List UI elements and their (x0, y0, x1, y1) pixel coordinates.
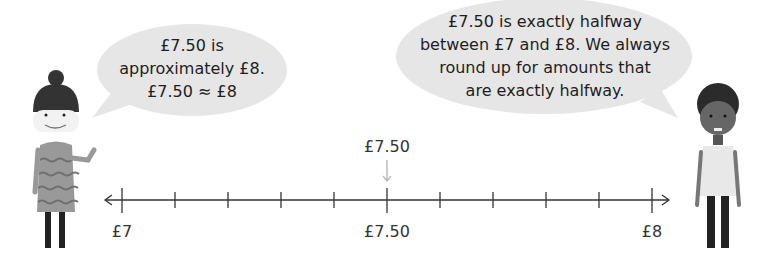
speech-line: approximately £8. (100, 57, 284, 80)
start-label: £7 (112, 222, 132, 241)
speech-line: £7.50 is (100, 34, 284, 57)
speech-line: £7.50 is exactly halfway (400, 10, 690, 33)
left-speech-text: £7.50 is approximately £8. £7.50 ≈ £8 (100, 34, 284, 103)
end-label: £8 (642, 222, 662, 241)
marker-label: £7.50 (364, 137, 410, 156)
speech-line: £7.50 ≈ £8 (100, 80, 284, 103)
number-line (105, 188, 669, 213)
girl-character (33, 70, 94, 248)
right-speech-text: £7.50 is exactly halfway between £7 and … (400, 10, 690, 102)
speech-line: between £7 and £8. We always (400, 33, 690, 56)
speech-line: are exactly halfway. (400, 79, 690, 102)
down-arrow-icon (383, 160, 391, 181)
mid-label: £7.50 (364, 222, 410, 241)
speech-line: round up for amounts that (400, 56, 690, 79)
boy-character (697, 83, 739, 248)
